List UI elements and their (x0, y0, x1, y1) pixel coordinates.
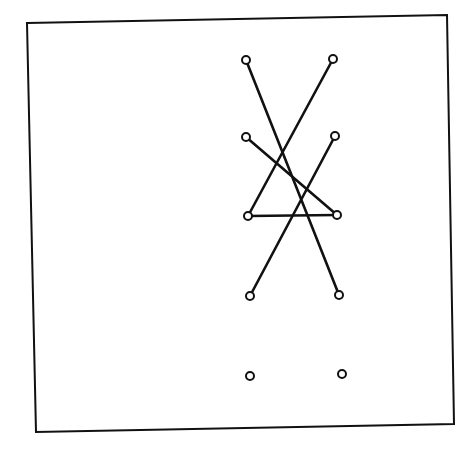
diagram-frame (27, 15, 454, 432)
node-circle-n8 (335, 291, 343, 299)
node-circle-n2 (329, 55, 337, 63)
node-circle-n9 (246, 372, 254, 380)
node-circle-n3 (242, 133, 250, 141)
node-circle-n10 (338, 370, 346, 378)
edge-n5-n6 (248, 215, 337, 216)
node-circle-n5 (244, 212, 252, 220)
node-circle-n6 (333, 211, 341, 219)
edge-n3-n6 (246, 137, 337, 215)
diagram-canvas (0, 0, 467, 461)
node-circle-n7 (246, 292, 254, 300)
node-circle-n4 (331, 132, 339, 140)
edges-layer (246, 59, 339, 296)
edge-n2-n5 (248, 59, 333, 216)
node-circle-n1 (242, 56, 250, 64)
nodes-layer (242, 55, 346, 380)
